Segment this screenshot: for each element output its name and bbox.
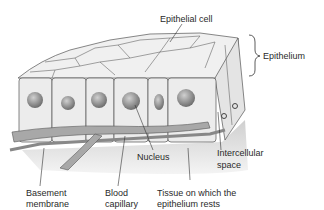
basement-membrane-label-2: membrane <box>26 199 69 209</box>
intercellular-space-label-2: space <box>217 160 241 170</box>
tissue-label-1: Tissue on which the <box>157 188 236 198</box>
epithelium-label: Epithelium <box>263 51 305 61</box>
epithelium-top-surface <box>18 33 240 78</box>
intercellular-space-label-1: Intercellular <box>217 148 264 158</box>
tissue-label-2: epithelium rests <box>157 199 220 209</box>
blood-capillary-label-2: capillary <box>105 199 138 209</box>
epithelium-diagram <box>0 0 324 210</box>
epithelial-cell-label: Epithelial cell <box>160 14 213 24</box>
blood-capillary-label-1: Blood <box>105 188 128 198</box>
basement-membrane-label-1: Basement <box>26 188 67 198</box>
nucleus-label: Nucleus <box>137 152 170 162</box>
